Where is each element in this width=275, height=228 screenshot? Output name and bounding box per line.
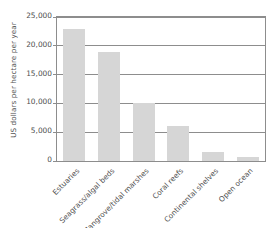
bar <box>167 126 189 161</box>
y-tick-mark <box>53 17 57 18</box>
plot-area <box>56 16 266 162</box>
x-tick-label: Continental shelves <box>162 166 220 224</box>
y-tick-label: 15,000 <box>14 70 52 78</box>
y-tick-label: 0 <box>14 156 52 164</box>
x-tick-label: Estuaries <box>51 166 81 196</box>
y-axis-tick-labels: 05,00010,00015,00020,00025,000 <box>14 10 52 160</box>
y-tick-label: 25,000 <box>14 12 52 20</box>
x-tick-label: Open ocean <box>217 166 255 204</box>
bar <box>237 157 259 161</box>
y-tick-label: 20,000 <box>14 41 52 49</box>
y-tick-mark <box>53 45 57 46</box>
y-tick-mark <box>53 132 57 133</box>
bar <box>63 29 85 161</box>
bar <box>98 52 120 161</box>
bars-layer <box>57 17 265 161</box>
y-tick-label: 5,000 <box>14 127 52 135</box>
bar <box>133 103 155 161</box>
x-tick-label: Mangrove/tidal marshes <box>81 166 151 228</box>
y-tick-label: 10,000 <box>14 98 52 106</box>
y-tick-mark <box>53 74 57 75</box>
bar-chart-figure: US dollars per hectare per year 05,00010… <box>0 0 275 228</box>
bar <box>202 152 224 161</box>
y-tick-mark <box>53 161 57 162</box>
y-tick-mark <box>53 103 57 104</box>
x-tick-label: Seagrass/algal beds <box>57 166 116 225</box>
x-tick-label: Coral reefs <box>151 166 186 201</box>
